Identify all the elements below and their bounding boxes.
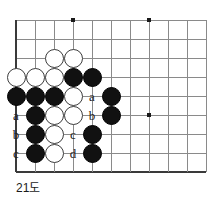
grid-line-vertical <box>149 20 150 172</box>
black-stone[interactable] <box>83 68 102 87</box>
go-board[interactable]: abcabcd <box>0 0 215 208</box>
white-stone[interactable] <box>45 125 64 144</box>
white-stone[interactable] <box>7 68 26 87</box>
star-point <box>147 18 151 22</box>
point-label-b: b <box>86 109 99 122</box>
grid-line-vertical <box>168 20 169 172</box>
grid-line-vertical <box>187 20 188 172</box>
white-stone[interactable] <box>45 144 64 163</box>
black-stone[interactable] <box>102 106 121 125</box>
black-stone[interactable] <box>64 68 83 87</box>
white-stone[interactable] <box>45 68 64 87</box>
white-stone[interactable] <box>45 49 64 68</box>
white-stone[interactable] <box>45 106 64 125</box>
point-label-c: c <box>67 128 80 141</box>
black-stone[interactable] <box>83 125 102 144</box>
black-stone[interactable] <box>26 125 45 144</box>
grid-line-vertical <box>206 20 207 172</box>
figure-caption: 21도 <box>16 182 40 195</box>
black-stone[interactable] <box>102 87 121 106</box>
point-label-a: a <box>10 109 23 122</box>
star-point <box>147 113 151 117</box>
white-stone[interactable] <box>64 106 83 125</box>
point-label-d: d <box>67 147 80 160</box>
grid-line-vertical <box>130 20 131 172</box>
star-point <box>71 18 75 22</box>
go-diagram-figure: abcabcd 21도 <box>0 0 215 208</box>
black-stone[interactable] <box>26 106 45 125</box>
white-stone[interactable] <box>26 68 45 87</box>
black-stone[interactable] <box>83 144 102 163</box>
black-stone[interactable] <box>26 87 45 106</box>
black-stone[interactable] <box>7 87 26 106</box>
point-label-c: c <box>10 147 23 160</box>
black-stone[interactable] <box>45 87 64 106</box>
white-stone[interactable] <box>64 49 83 68</box>
white-stone[interactable] <box>64 87 83 106</box>
point-label-b: b <box>10 128 23 141</box>
point-label-a: a <box>86 90 99 103</box>
black-stone[interactable] <box>26 144 45 163</box>
